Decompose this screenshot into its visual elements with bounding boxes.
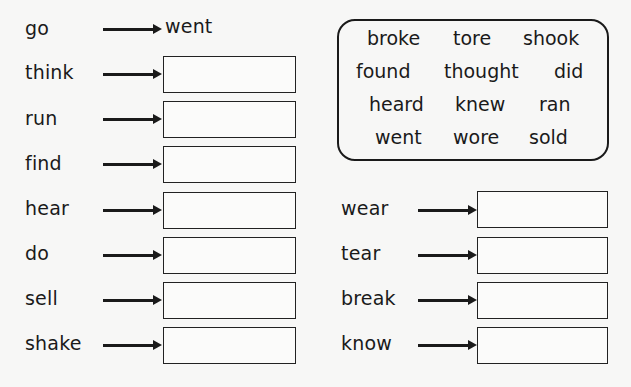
answer-box-do[interactable]: [163, 237, 296, 274]
example-past-tense: went: [165, 15, 213, 37]
word-bank-row: went wore sold: [339, 125, 607, 149]
verb-label: know: [341, 332, 392, 354]
verb-label: sell: [25, 287, 58, 309]
arrow-icon: [103, 163, 158, 166]
answer-box-tear[interactable]: [477, 237, 608, 274]
word-bank-item: broke: [367, 26, 420, 50]
verb-label: find: [25, 152, 62, 174]
word-bank-item: did: [554, 59, 583, 83]
answer-box-hear[interactable]: [163, 192, 296, 229]
word-bank-item: went: [375, 125, 422, 149]
verb-label: run: [25, 107, 58, 129]
answer-box-think[interactable]: [163, 56, 296, 93]
verb-label: tear: [341, 242, 380, 264]
answer-box-find[interactable]: [163, 146, 296, 183]
arrow-icon: [418, 299, 473, 302]
arrow-icon: [103, 28, 158, 31]
arrow-icon: [103, 344, 158, 347]
word-bank-item: wore: [453, 125, 499, 149]
arrow-icon: [103, 209, 158, 212]
verb-label: shake: [25, 332, 82, 354]
answer-box-shake[interactable]: [163, 327, 296, 364]
word-bank-row: found thought did: [339, 59, 607, 83]
answer-box-break[interactable]: [477, 282, 608, 319]
verb-label: think: [25, 61, 74, 83]
arrow-icon: [103, 299, 158, 302]
answer-box-run[interactable]: [163, 101, 296, 138]
verb-label: hear: [25, 197, 69, 219]
word-bank-item: thought: [444, 59, 519, 83]
word-bank-item: sold: [529, 125, 568, 149]
answer-box-wear[interactable]: [477, 191, 608, 228]
word-bank-item: shook: [523, 26, 579, 50]
arrow-icon: [418, 254, 473, 257]
answer-box-sell[interactable]: [163, 282, 296, 319]
word-bank: broke tore shook found thought did heard…: [337, 19, 609, 161]
arrow-icon: [103, 73, 158, 76]
answer-box-know[interactable]: [477, 327, 608, 364]
word-bank-item: found: [356, 59, 410, 83]
example-verb: go: [25, 17, 49, 39]
arrow-icon: [103, 254, 158, 257]
arrow-icon: [418, 209, 473, 212]
word-bank-row: heard knew ran: [339, 92, 607, 116]
word-bank-item: ran: [539, 92, 571, 116]
word-bank-item: knew: [455, 92, 505, 116]
word-bank-item: heard: [369, 92, 424, 116]
word-bank-row: broke tore shook: [339, 26, 607, 50]
verb-label: wear: [341, 197, 388, 219]
arrow-icon: [103, 118, 158, 121]
word-bank-item: tore: [453, 26, 491, 50]
verb-label: break: [341, 287, 396, 309]
arrow-icon: [418, 344, 473, 347]
verb-label: do: [25, 242, 49, 264]
